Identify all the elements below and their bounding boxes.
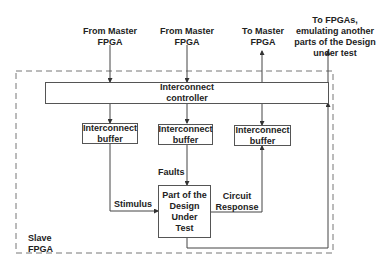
- label-line: To Master: [236, 26, 290, 37]
- label-line: under test: [292, 48, 378, 59]
- interconnect-controller-block: Interconnect controller: [45, 82, 329, 104]
- to-master-fpga-label: To Master FPGA: [236, 26, 290, 48]
- label-line: parts of the Design: [292, 37, 378, 48]
- interconnect-buffer-1: Interconnect buffer: [82, 123, 138, 144]
- interconnect-buffer-3: Interconnect buffer: [234, 125, 291, 146]
- block-label: Part of the: [162, 190, 207, 201]
- from-master-fpga-label-2: From Master FPGA: [157, 26, 217, 48]
- label-line: Circuit: [213, 191, 261, 202]
- interconnect-buffer-2: Interconnect buffer: [158, 124, 213, 145]
- block-label: Interconnect: [235, 125, 289, 136]
- block-label: Interconnect: [160, 82, 214, 93]
- label-line: Response: [213, 202, 261, 213]
- label-line: FPGA: [28, 244, 58, 255]
- to-fpgas-label: To FPGAs, emulating another parts of the…: [292, 15, 378, 59]
- circuit-response-label: Circuit Response: [213, 191, 261, 213]
- label-line: FPGA: [236, 37, 290, 48]
- label-line: FPGA: [80, 37, 140, 48]
- block-label: controller: [166, 93, 208, 104]
- block-label: Test: [176, 223, 194, 234]
- stimulus-label: Stimulus: [114, 199, 156, 210]
- block-label: Interconnect: [159, 124, 213, 135]
- label-line: From Master: [157, 26, 217, 37]
- from-master-fpga-label-1: From Master FPGA: [80, 26, 140, 48]
- design-under-test-block: Part of the Design Under Test: [158, 185, 211, 238]
- slave-fpga-label: Slave FPGA: [28, 233, 58, 255]
- block-label: buffer: [250, 136, 276, 147]
- faults-label: Faults: [158, 167, 188, 178]
- block-label: Design Under: [159, 201, 210, 223]
- label-line: emulating another: [292, 26, 378, 37]
- block-label: buffer: [97, 134, 123, 145]
- block-label: buffer: [173, 135, 199, 146]
- label-line: Slave: [28, 233, 58, 244]
- label-line: To FPGAs,: [292, 15, 378, 26]
- label-line: FPGA: [157, 37, 217, 48]
- label-line: From Master: [80, 26, 140, 37]
- block-label: Interconnect: [83, 123, 137, 134]
